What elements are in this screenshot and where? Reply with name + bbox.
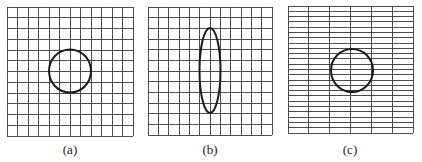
caption-b: (b): [202, 142, 217, 157]
panel-c: (c): [288, 6, 413, 157]
figure: (a) (b) (c): [0, 0, 422, 162]
caption-a: (a): [63, 142, 77, 157]
grid-c: [288, 6, 413, 133]
panel-b: (b): [148, 7, 272, 157]
grid-b: [148, 7, 272, 135]
caption-c: (c): [343, 142, 357, 157]
panel-a: (a): [7, 7, 133, 157]
grid-a: [7, 7, 133, 136]
